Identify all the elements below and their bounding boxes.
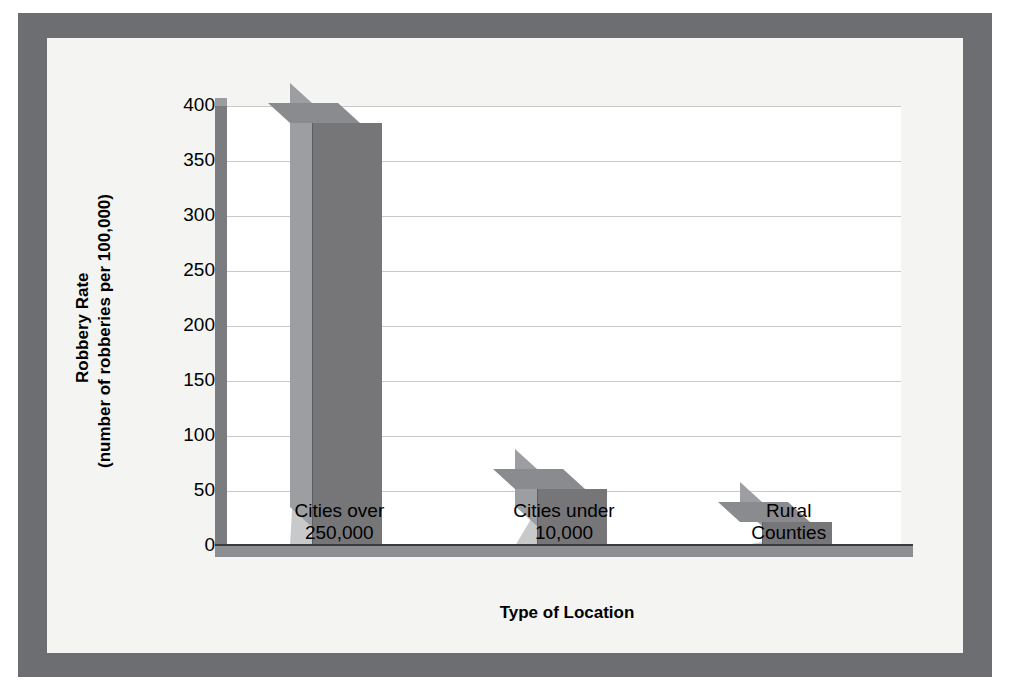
bar	[227, 106, 901, 546]
plot-floor	[215, 546, 913, 557]
x-axis-category-label-line: 10,000	[464, 522, 664, 544]
plot-left-wall	[215, 106, 227, 546]
y-axis-tick-label: 250	[87, 260, 215, 279]
x-axis-category-label-line: Cities under	[464, 500, 664, 522]
x-axis-category-label-line: Cities over	[239, 500, 439, 522]
chart-canvas: Robbery Rate (number of robberies per 10…	[47, 38, 963, 653]
plot-left-wall-cap	[215, 98, 227, 106]
x-axis-title: Type of Location	[217, 603, 917, 623]
x-axis-category-label-line: Rural	[689, 500, 889, 522]
y-axis-tick-label: 200	[87, 315, 215, 334]
x-axis-category-label-line: 250,000	[239, 522, 439, 544]
chart-page: Robbery Rate (number of robberies per 10…	[0, 0, 1010, 690]
y-axis-tick-label: 50	[87, 480, 215, 499]
y-axis-tick-label: 350	[87, 150, 215, 169]
image-frame-border: Robbery Rate (number of robberies per 10…	[18, 13, 992, 677]
y-axis-tick-label: 0	[87, 535, 215, 554]
y-axis-title: Robbery Rate (number of robberies per 10…	[47, 38, 125, 653]
y-axis-tick-label: 100	[87, 425, 215, 444]
x-axis-category-label: Cities over250,000	[239, 500, 439, 544]
plot-area	[227, 106, 901, 546]
y-axis-tick-label: 400	[87, 95, 215, 114]
y-axis-tick-label: 300	[87, 205, 215, 224]
x-axis-category-label: RuralCounties	[689, 500, 889, 544]
y-axis-tick-label: 150	[87, 370, 215, 389]
x-axis-category-label-line: Counties	[689, 522, 889, 544]
x-axis-category-label: Cities under10,000	[464, 500, 664, 544]
